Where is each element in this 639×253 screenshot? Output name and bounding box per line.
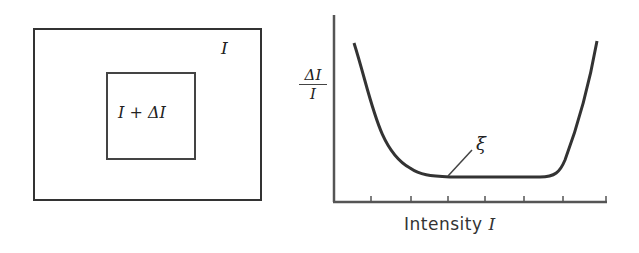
xi-annotation: ξ (476, 133, 486, 154)
weber-chart (0, 0, 639, 253)
annotation-leader (448, 150, 472, 176)
x-label-var: I (488, 214, 495, 234)
x-axis-label: Intensity I (404, 214, 496, 234)
y-label-denominator: I (310, 85, 316, 103)
weber-curve (354, 41, 597, 177)
y-axis-label: ΔI I (299, 66, 327, 103)
y-label-numerator: ΔI (299, 66, 327, 85)
x-label-text: Intensity (404, 214, 483, 234)
